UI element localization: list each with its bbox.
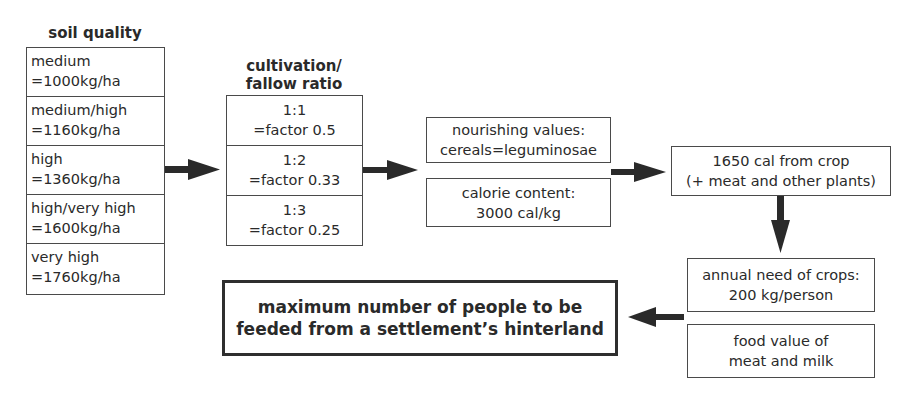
arrow-down-icon: [771, 196, 790, 253]
arrow-right-icon: [165, 159, 220, 180]
arrow-right-icon: [611, 162, 666, 182]
arrows-layer: [0, 0, 912, 402]
arrow-left-icon: [628, 307, 684, 327]
arrow-right-icon: [363, 160, 418, 180]
